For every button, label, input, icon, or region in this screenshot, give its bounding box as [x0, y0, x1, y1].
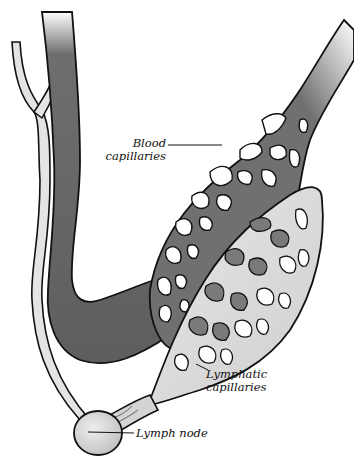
capillary-illustration	[0, 0, 354, 463]
label-line: capillaries	[206, 381, 267, 394]
label-line: capillaries	[104, 150, 166, 163]
label-blood-capillaries: Blood capillaries	[104, 137, 166, 163]
diagram: Blood capillaries Lymphatic capillaries …	[0, 0, 354, 463]
label-lymphatic-capillaries: Lymphatic capillaries	[206, 368, 267, 394]
label-lymph-node: Lymph node	[136, 427, 208, 440]
